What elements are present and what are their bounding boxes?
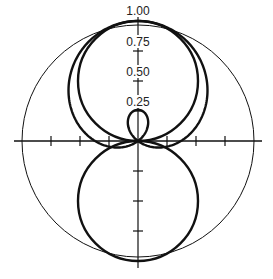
radial-label-1-00: 1.00 [126, 4, 150, 18]
radial-label-0-75: 0.75 [126, 35, 150, 49]
radial-label-0-50: 0.50 [126, 65, 150, 79]
radial-label-0-25: 0.25 [126, 95, 150, 109]
polar-plot: 1.00 0.75 0.50 0.25 [0, 0, 273, 279]
polar-diagram: 1.00 0.75 0.50 0.25 [0, 0, 273, 279]
